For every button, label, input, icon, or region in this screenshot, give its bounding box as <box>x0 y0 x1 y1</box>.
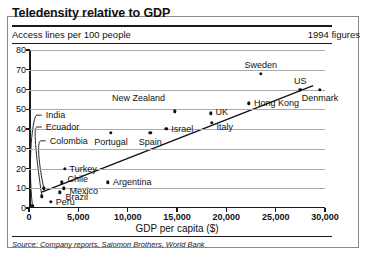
x-axis-tick-mark <box>275 208 276 212</box>
data-point-label: Spain <box>139 137 162 147</box>
y-axis-tick-mark <box>26 128 30 129</box>
gridline <box>29 149 325 150</box>
source-note: Source: Company reports, Salomon Brother… <box>12 240 205 249</box>
data-point-label: Turkey <box>70 164 97 174</box>
data-point-label: US <box>294 76 307 86</box>
x-axis-tick-mark <box>226 208 227 212</box>
scatter-plot: 0102030405060708005,00010,00015,00020,00… <box>29 50 325 208</box>
y-axis-tick-mark <box>26 188 30 189</box>
x-axis-tick-label: 5,000 <box>67 212 90 222</box>
data-point-label: Chile <box>68 174 89 184</box>
y-axis-tick-label: 80 <box>16 45 26 55</box>
page-title: Teledensity relative to GDP <box>12 6 170 20</box>
gridline <box>29 109 325 110</box>
y-axis-tick-mark <box>26 148 30 149</box>
data-point-label: Sweden <box>245 60 278 70</box>
x-axis-tick-mark <box>127 208 128 212</box>
data-point-label: Italy <box>217 122 234 132</box>
y-axis-tick-mark <box>26 168 30 169</box>
data-point-label: Israel <box>171 124 193 134</box>
data-point-label: Colombia <box>50 136 88 146</box>
data-point-label: India <box>46 110 66 120</box>
y-axis-tick-label: 30 <box>16 144 26 154</box>
x-axis-tick-label: 30,000 <box>311 212 339 222</box>
y-axis-tick-mark <box>26 49 30 50</box>
y-axis-tick-label: 50 <box>16 104 26 114</box>
x-axis-tick-mark <box>176 208 177 212</box>
x-axis-tick-label: 20,000 <box>213 212 241 222</box>
subtitle-divider <box>12 43 332 44</box>
y-axis-tick-mark <box>26 69 30 70</box>
y-axis-tick-mark <box>26 109 30 110</box>
data-point-label: Portugal <box>94 137 128 147</box>
chart-year-annotation: 1994 figures <box>308 29 360 40</box>
x-axis-tick-mark <box>28 208 29 212</box>
data-point-label: New Zealand <box>112 93 165 103</box>
source-divider <box>12 236 332 237</box>
data-point-label: Argentina <box>113 177 152 187</box>
gridline <box>29 50 325 51</box>
data-point-label: Denmark <box>302 93 339 103</box>
y-axis-tick-label: 70 <box>16 65 26 75</box>
y-axis-tick-label: 10 <box>16 183 26 193</box>
y-axis-tick-label: 40 <box>16 124 26 134</box>
x-axis-tick-label: 10,000 <box>114 212 142 222</box>
x-axis-title: GDP per capita ($) <box>29 223 325 234</box>
data-point-label: Hong Kong <box>254 98 299 108</box>
chart-subtitle: Access lines per 100 people <box>12 29 131 40</box>
data-point-label: Ecuador <box>46 122 80 132</box>
y-axis-tick-mark <box>26 89 30 90</box>
y-axis-tick-label: 20 <box>16 164 26 174</box>
y-axis-tick-label: 60 <box>16 85 26 95</box>
x-axis-tick-label: 15,000 <box>163 212 191 222</box>
gridline <box>29 70 325 71</box>
x-axis-tick-label: 25,000 <box>262 212 290 222</box>
data-point-label: Peru <box>56 197 75 207</box>
data-point-label: UK <box>216 107 229 117</box>
x-axis-tick-mark <box>324 208 325 212</box>
x-axis-tick-label: 0 <box>26 212 31 222</box>
x-axis-tick-mark <box>78 208 79 212</box>
title-divider <box>12 25 332 27</box>
gridline <box>29 90 325 91</box>
